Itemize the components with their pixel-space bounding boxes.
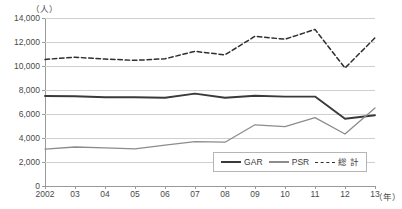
series-layer — [0, 0, 402, 209]
line-chart: （人） （年） 02,0004,0006,0008,00010,00012,00… — [0, 0, 402, 209]
legend-label-psr: PSR — [292, 158, 309, 167]
legend-label-total: 総 計 — [338, 158, 358, 167]
series-line-PSR — [45, 108, 375, 149]
legend-item-gar: GAR — [221, 158, 262, 167]
series-line-GAR — [45, 94, 375, 119]
series-line-総計 — [45, 29, 375, 68]
legend-item-psr: PSR — [269, 158, 309, 167]
legend-label-gar: GAR — [244, 158, 262, 167]
legend-swatch-psr — [269, 161, 289, 163]
legend-swatch-gar — [221, 161, 241, 163]
legend-swatch-total — [315, 162, 335, 163]
chart-legend: GAR PSR 総 計 — [213, 152, 367, 172]
legend-item-total: 総 計 — [315, 158, 358, 167]
